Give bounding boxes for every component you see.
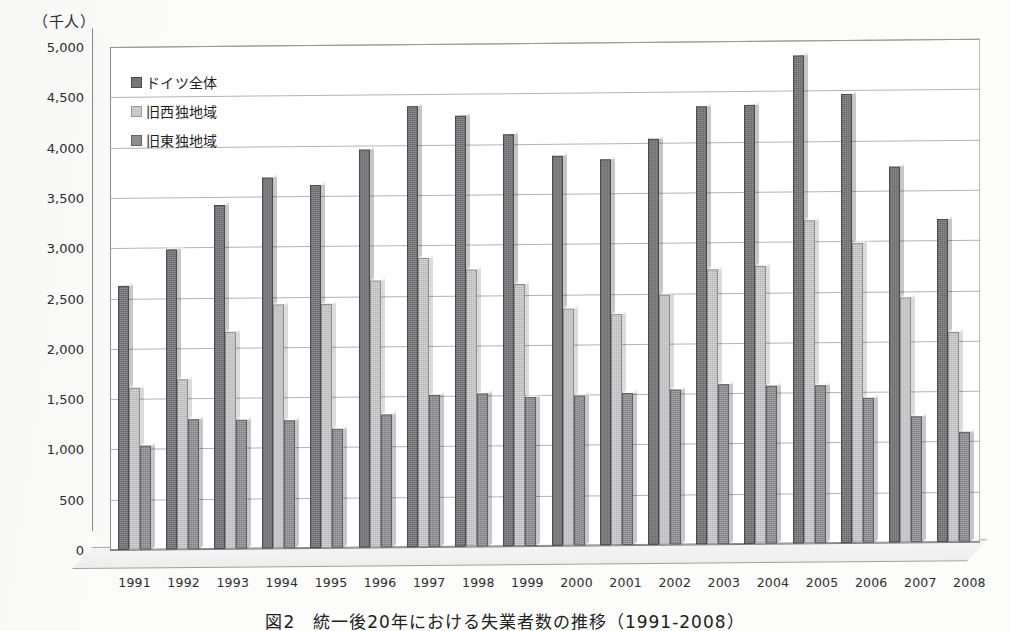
x-axis-tick-label: 1991 — [110, 575, 159, 595]
bar-face — [696, 107, 707, 545]
bar-side-face — [392, 411, 396, 547]
bar-side-face — [247, 417, 251, 549]
y-axis-tick-label: 0 — [24, 543, 84, 558]
bar-top-face — [696, 104, 715, 107]
bar-2007-s0 — [889, 166, 900, 542]
x-axis-tick-label: 1994 — [257, 575, 306, 595]
bar-2004-s0 — [744, 105, 755, 544]
bar-face — [804, 220, 815, 543]
plot-area: 5,0004,5004,0003,5003,0002,5002,0001,500… — [92, 47, 980, 569]
bar-2005-s1 — [804, 220, 815, 543]
bar-top-face — [659, 291, 678, 294]
bar-2005-s0 — [793, 55, 804, 543]
bar-series-container — [110, 39, 978, 550]
bar-top-face — [140, 443, 159, 446]
bar-2001-s1 — [611, 314, 622, 545]
legend-swatch-icon — [131, 77, 142, 88]
bar-2004-s2 — [766, 386, 777, 544]
x-axis-tick-label: 2006 — [847, 575, 896, 595]
bar-face — [670, 390, 681, 545]
bar-face — [514, 284, 525, 546]
bar-face — [766, 386, 777, 544]
figure-caption: 図2 統一後20年における失業者数の推移（1991-2008） — [0, 608, 1010, 631]
bar-2003-s1 — [707, 270, 718, 545]
bar-group — [351, 44, 399, 547]
bar-top-face — [381, 411, 400, 414]
bar-face — [381, 415, 392, 548]
bar-face — [659, 294, 670, 545]
bar-1993-s1 — [225, 332, 236, 549]
bar-top-face — [622, 390, 641, 393]
bar-face — [429, 395, 440, 547]
bar-group — [255, 45, 303, 548]
x-axis-tick-label: 1998 — [454, 575, 503, 595]
bar-top-face — [236, 417, 255, 420]
x-axis-tick-label: 2004 — [748, 575, 797, 595]
bar-face — [262, 177, 273, 548]
bar-side-face — [488, 390, 492, 546]
bar-top-face — [574, 392, 593, 395]
bar-side-face — [199, 416, 203, 549]
bar-face — [622, 393, 633, 545]
bar-face — [755, 266, 766, 544]
bar-face — [900, 297, 911, 543]
chart-legend: ドイツ全体 旧西独地域 旧東独地域 — [131, 72, 218, 150]
bar-top-face — [841, 91, 860, 94]
bar-2008-s1 — [948, 332, 959, 542]
bar-2006-s1 — [852, 243, 863, 543]
bar-face — [118, 286, 129, 550]
bar-side-face — [922, 413, 926, 542]
bar-face — [166, 250, 177, 550]
bar-side-face — [729, 381, 733, 544]
bar-1999-s1 — [514, 284, 525, 546]
y-axis-tick-label: 2,000 — [24, 341, 84, 356]
bar-top-face — [755, 263, 774, 266]
bar-group — [737, 41, 785, 544]
bar-group — [544, 42, 592, 545]
bar-side-face — [536, 394, 540, 546]
bar-2000-s1 — [563, 308, 574, 546]
bar-1998-s1 — [466, 270, 477, 547]
x-axis-tick-labels: 1991199219931994199519961997199819992000… — [110, 575, 994, 595]
bar-face — [177, 379, 188, 549]
bar-face — [525, 397, 536, 546]
bar-top-face — [937, 216, 956, 219]
bar-face — [407, 106, 418, 547]
x-axis-tick-label: 2008 — [945, 575, 994, 595]
bar-face — [503, 134, 514, 547]
bar-1995-s2 — [332, 429, 343, 548]
x-axis-tick-label: 2007 — [896, 575, 945, 595]
bar-top-face — [359, 146, 378, 149]
legend-item-total: ドイツ全体 — [131, 72, 218, 92]
x-axis-tick-label: 2001 — [601, 575, 650, 595]
bar-2007-s1 — [900, 297, 911, 543]
bar-top-face — [429, 392, 448, 395]
y-axis-tick-label: 1,500 — [24, 392, 84, 407]
bar-1994-s0 — [262, 177, 273, 548]
bar-face — [600, 159, 611, 545]
bar-side-face — [681, 386, 685, 544]
bar-side-face — [151, 443, 155, 550]
bar-group — [303, 45, 351, 548]
bar-top-face — [503, 131, 522, 134]
bar-top-face — [793, 52, 812, 55]
bar-face — [863, 398, 874, 543]
x-axis-tick-label: 1997 — [405, 575, 454, 595]
bar-top-face — [225, 328, 244, 331]
bar-face — [574, 396, 585, 546]
bar-face — [744, 105, 755, 544]
bar-2002-s1 — [659, 294, 670, 545]
y-axis-tick-label: 500 — [24, 492, 84, 507]
y-axis-tick-label: 4,000 — [24, 140, 84, 155]
bar-top-face — [707, 266, 726, 269]
bar-face — [225, 332, 236, 549]
bar-2007-s2 — [911, 416, 922, 542]
bar-2001-s2 — [622, 393, 633, 545]
bar-face — [273, 304, 284, 549]
bar-face — [188, 419, 199, 549]
bar-face — [948, 332, 959, 542]
bar-1991-s1 — [129, 388, 140, 550]
bar-1997-s0 — [407, 106, 418, 547]
bar-top-face — [466, 267, 485, 270]
x-axis-tick-label: 2002 — [650, 575, 699, 595]
